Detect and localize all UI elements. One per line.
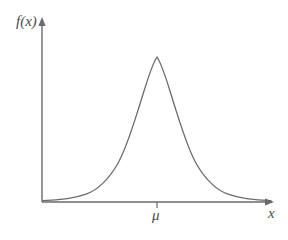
- plot-area: [0, 0, 288, 240]
- x-axis-label: x: [268, 206, 275, 221]
- y-axis-label: f(x): [16, 14, 37, 29]
- y-axis-arrow-icon: [38, 17, 45, 26]
- gaussian-curve: [43, 57, 271, 201]
- mu-tick-label: μ: [152, 208, 160, 223]
- normal-distribution-figure: f(x) x μ: [0, 0, 288, 240]
